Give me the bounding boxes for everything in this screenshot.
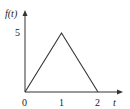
x-tick-1: 1 xyxy=(59,98,64,108)
y-axis-label: f(t) xyxy=(5,9,17,19)
x-axis-arrow-icon xyxy=(117,90,123,95)
y-tick-5: 5 xyxy=(15,28,20,38)
x-tick-0: 0 xyxy=(22,98,27,108)
plot-area xyxy=(0,0,130,109)
triangle-pulse-figure: f(t) 5 0 1 2 t xyxy=(0,0,130,109)
x-axis-label: t xyxy=(113,98,116,108)
x-tick-2: 2 xyxy=(95,98,100,108)
series-line-f-of-t xyxy=(25,33,98,92)
y-axis-arrow-icon xyxy=(23,10,28,16)
